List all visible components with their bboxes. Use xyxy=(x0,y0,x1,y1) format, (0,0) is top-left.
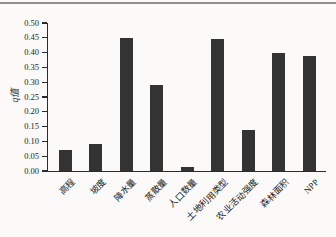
y-axis-tick xyxy=(42,156,47,157)
y-tick-label: 0.00 xyxy=(3,167,39,176)
x-tick-label: 蒸散量 xyxy=(142,177,168,203)
y-axis-tick xyxy=(42,52,47,53)
y-tick-label: 0.05 xyxy=(3,152,39,161)
y-axis-tick xyxy=(42,37,47,38)
x-tick-label: 森林面积 xyxy=(258,177,291,210)
y-axis-tick xyxy=(42,126,47,127)
bar-9 xyxy=(303,56,316,171)
plot-area: 0.000.050.100.150.200.250.300.350.400.45… xyxy=(47,23,326,172)
x-tick-label: 高程 xyxy=(57,177,77,197)
y-tick-label: 0.30 xyxy=(3,78,39,87)
bar-1 xyxy=(59,150,72,171)
bar-5 xyxy=(181,167,194,171)
bar-2 xyxy=(89,144,102,171)
y-axis-tick xyxy=(42,141,47,142)
bar-4 xyxy=(150,85,163,171)
x-tick-label: NPP xyxy=(302,177,321,196)
scanned-page: q值 0.000.050.100.150.200.250.300.350.400… xyxy=(0,0,336,237)
y-axis-tick xyxy=(42,111,47,112)
y-tick-label: 0.50 xyxy=(3,19,39,28)
bar-chart-figure: q值 0.000.050.100.150.200.250.300.350.400… xyxy=(0,0,336,237)
y-tick-label: 0.20 xyxy=(3,107,39,116)
y-tick-label: 0.25 xyxy=(3,93,39,102)
y-tick-label: 0.35 xyxy=(3,63,39,72)
y-axis-tick xyxy=(42,82,47,83)
x-tick-label: 降水量 xyxy=(112,177,138,203)
y-tick-label: 0.10 xyxy=(3,137,39,146)
bar-6 xyxy=(211,39,224,171)
y-tick-label: 0.15 xyxy=(3,122,39,131)
y-axis-tick xyxy=(42,67,47,68)
x-tick-label: 坡度 xyxy=(88,177,108,197)
y-tick-label: 0.40 xyxy=(3,48,39,57)
y-axis-tick xyxy=(42,96,47,97)
bar-7 xyxy=(242,130,255,171)
y-axis-tick xyxy=(42,170,47,171)
y-axis-tick xyxy=(42,22,47,23)
bar-8 xyxy=(272,53,285,171)
bar-3 xyxy=(120,38,133,171)
y-tick-label: 0.45 xyxy=(3,33,39,42)
